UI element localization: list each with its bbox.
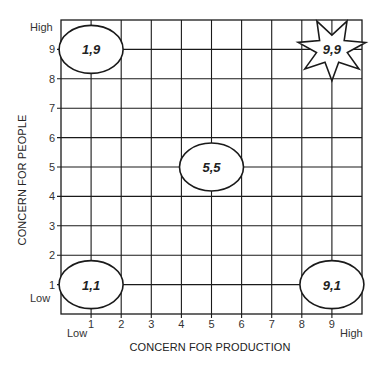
y-tick-label: 4 — [49, 190, 55, 202]
point-label: 9,1 — [323, 278, 341, 293]
y-tick-label: 2 — [49, 249, 55, 261]
x-tick-label: 1 — [88, 318, 94, 330]
point-1-1: 1,1 — [59, 261, 123, 309]
data-points: 1,99,95,51,19,1 — [59, 21, 366, 309]
x-tick-label: 6 — [239, 318, 245, 330]
point-label: 1,9 — [82, 42, 101, 57]
x-axis-title: CONCERN FOR PRODUCTION — [129, 341, 290, 353]
y-tick-label: 9 — [49, 43, 55, 55]
y-axis-low-label: Low — [30, 292, 50, 304]
y-axis-title: CONCERN FOR PEOPLE — [16, 115, 28, 246]
x-tick-label: 8 — [299, 318, 305, 330]
y-tick-label: 6 — [49, 132, 55, 144]
y-tick-label: 8 — [49, 73, 55, 85]
x-axis-low-label: Low — [67, 327, 87, 339]
y-tick-label: 7 — [49, 102, 55, 114]
point-label: 9,9 — [323, 42, 342, 57]
point-1-9: 1,9 — [59, 25, 123, 73]
x-axis-ticks: 123456789 — [88, 318, 335, 330]
y-axis-high-label: High — [30, 21, 53, 33]
y-tick-label: 5 — [49, 161, 55, 173]
point-label: 1,1 — [82, 278, 100, 293]
y-tick-label: 1 — [49, 279, 55, 291]
point-9-1: 9,1 — [300, 261, 364, 309]
point-5-5: 5,5 — [180, 143, 244, 191]
y-axis-ticks: 123456789 — [49, 43, 55, 290]
x-tick-label: 5 — [208, 318, 214, 330]
point-label: 5,5 — [202, 160, 221, 175]
x-tick-label: 2 — [118, 318, 124, 330]
x-tick-label: 7 — [269, 318, 275, 330]
x-tick-label: 4 — [178, 318, 184, 330]
x-axis-high-label: High — [340, 327, 363, 339]
x-tick-label: 3 — [148, 318, 154, 330]
y-tick-label: 3 — [49, 220, 55, 232]
managerial-grid-chart: 123456789 123456789 High Low Low High CO… — [0, 0, 381, 367]
x-tick-label: 9 — [329, 318, 335, 330]
